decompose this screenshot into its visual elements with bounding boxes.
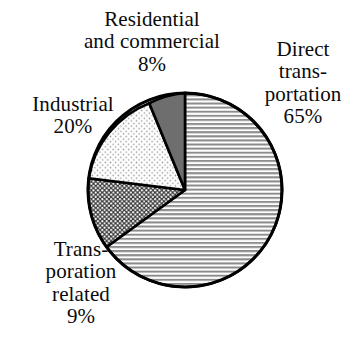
- slice-label-industrial: Industrial 20%: [8, 93, 138, 138]
- slice-label-transportation-related: Trans- poration related 9%: [16, 238, 146, 327]
- slice-label-line: Industrial: [8, 93, 138, 115]
- slice-label-line: related: [16, 283, 146, 305]
- slice-label-value: 9%: [16, 305, 146, 327]
- slice-label-line: Trans-: [16, 238, 146, 260]
- pie-chart-figure: Residential and commercial 8% Direct tra…: [0, 0, 359, 353]
- slice-label-line: Direct: [247, 38, 359, 60]
- slice-label-line: trans-: [247, 60, 359, 82]
- slice-label-value: 65%: [247, 105, 359, 127]
- slice-label-residential-and-commercial: Residential and commercial 8%: [52, 8, 252, 75]
- slice-label-line: Residential: [52, 8, 252, 30]
- slice-label-line: portation: [247, 83, 359, 105]
- slice-label-value: 20%: [8, 115, 138, 137]
- slice-label-line: and commercial: [52, 30, 252, 52]
- slice-label-direct-transportation: Direct trans- portation 65%: [247, 38, 359, 127]
- slice-label-value: 8%: [52, 53, 252, 75]
- slice-label-line: poration: [16, 260, 146, 282]
